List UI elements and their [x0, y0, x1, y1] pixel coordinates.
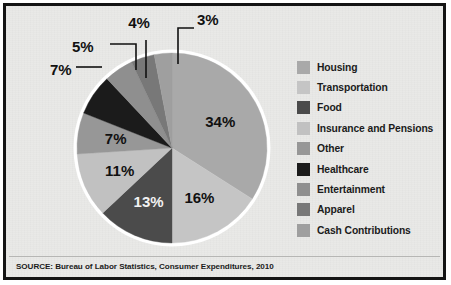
pie-value-label-insurance-and-pensions: 11% [105, 162, 134, 179]
legend-label-housing: Housing [317, 62, 357, 73]
legend-item-healthcare[interactable]: Healthcare [297, 159, 447, 179]
legend-item-other[interactable]: Other [297, 139, 447, 159]
legend-item-food[interactable]: Food [297, 98, 447, 118]
legend-swatch-transportation [297, 81, 310, 94]
pie-callout-label-cash-contributions: 3% [197, 11, 219, 28]
pie-callout-label-entertainment: 5% [72, 38, 94, 55]
legend-label-food: Food [317, 102, 342, 113]
legend-label-healthcare: Healthcare [317, 164, 369, 175]
legend-item-cash-contributions[interactable]: Cash Contributions [297, 220, 447, 240]
legend-swatch-cash-contributions [297, 224, 310, 237]
pie-value-label-housing: 34% [205, 113, 235, 130]
legend-item-housing[interactable]: Housing [297, 57, 447, 77]
pie-callout-label-healthcare: 7% [50, 61, 72, 78]
pie-value-label-other: 7% [105, 130, 127, 147]
legend-label-other: Other [317, 143, 344, 154]
legend-label-entertainment: Entertainment [317, 184, 385, 195]
chart-legend: Housing Transportation Food Insurance an… [297, 57, 447, 241]
legend-swatch-entertainment [297, 183, 310, 196]
legend-label-insurance-and-pensions: Insurance and Pensions [317, 123, 433, 134]
legend-swatch-insurance-and-pensions [297, 122, 310, 135]
legend-label-cash-contributions: Cash Contributions [317, 225, 411, 236]
legend-item-entertainment[interactable]: Entertainment [297, 179, 447, 199]
pie-callout-label-apparel: 4% [128, 14, 150, 31]
pie-slice-group [77, 53, 267, 243]
pie-value-label-transportation: 16% [184, 189, 214, 206]
legend-swatch-other [297, 142, 310, 155]
legend-item-transportation[interactable]: Transportation [297, 77, 447, 97]
pie-chart-figure: 34%16%13%11%7%7%5%4%3% Housing Transport… [0, 0, 451, 285]
legend-swatch-apparel [297, 203, 310, 216]
legend-swatch-healthcare [297, 163, 310, 176]
source-divider [9, 256, 440, 257]
source-note: SOURCE: Bureau of Labor Statistics, Cons… [16, 262, 274, 271]
legend-label-transportation: Transportation [317, 82, 388, 93]
legend-item-insurance-and-pensions[interactable]: Insurance and Pensions [297, 118, 447, 138]
legend-swatch-food [297, 101, 310, 114]
legend-item-apparel[interactable]: Apparel [297, 200, 447, 220]
legend-swatch-housing [297, 61, 310, 74]
pie-value-label-food: 13% [134, 193, 164, 210]
legend-label-apparel: Apparel [317, 204, 355, 215]
